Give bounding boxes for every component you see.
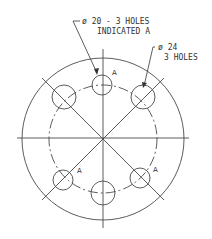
leader-arrow-small [94,68,99,75]
leader-large-holes [144,47,155,86]
callout-small-line1: ø 20 - 3 HOLES [82,17,150,26]
large-hole-top-right [131,85,155,109]
large-hole-top-left [52,85,76,109]
callout-small-line2: INDICATED A [97,27,150,36]
leader-small-holes [73,21,97,73]
small-hole-bottom-left [53,170,73,190]
hole-marker-a-left: A [77,167,82,175]
callout-large-line2: 3 HOLES [164,53,198,62]
flange-drawing: A A A ø 20 - 3 HOLES INDICATED A ø 24 3 … [0,0,212,239]
hole-marker-a-right: A [153,166,158,174]
hole-marker-a-top: A [112,69,117,77]
callout-large-line1: ø 24 [158,43,177,52]
